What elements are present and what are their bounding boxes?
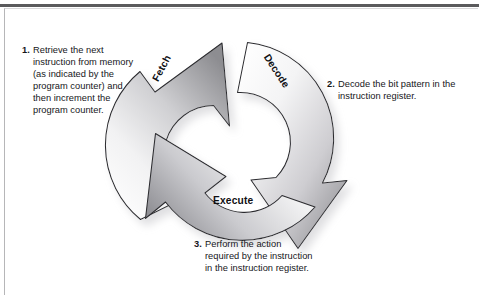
step-1-caption: 1. Retrieve the next instruction from me… — [22, 45, 134, 116]
step-1-number: 1. — [22, 45, 30, 57]
step-3-caption: 3. Perform the action required by the in… — [194, 239, 318, 275]
step-2-text: Decode the bit pattern in the instructio… — [338, 79, 473, 103]
step-2-number: 2. — [327, 79, 335, 91]
cycle-arrows — [105, 43, 347, 249]
figure-page: Fetch Decode Execute 1. Retrieve the nex… — [0, 0, 479, 295]
step-1-text: Retrieve the next instruction from memor… — [33, 45, 134, 116]
step-3-text: Perform the action required by the instr… — [205, 239, 318, 275]
step-3-number: 3. — [194, 239, 202, 251]
step-2-caption: 2. Decode the bit pattern in the instruc… — [327, 79, 473, 103]
arrow-label-execute: Execute — [213, 195, 253, 206]
